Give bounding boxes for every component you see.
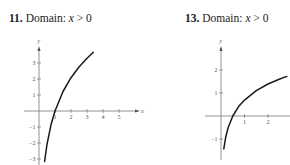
- plots-canvas: xy12345321−1−2−3y1221−1: [0, 0, 290, 165]
- y-tick-label: −1: [211, 136, 217, 142]
- x-tick-label: 4: [102, 114, 105, 120]
- y-tick-label: −3: [29, 156, 35, 162]
- curve-line: [224, 76, 287, 148]
- y-tick-label: −1: [29, 124, 35, 130]
- x-axis-arrow-icon: [135, 109, 140, 112]
- x-tick-label: 2: [267, 119, 270, 125]
- y-axis-label: y: [219, 38, 223, 44]
- y-tick-label: −2: [29, 140, 35, 146]
- graph-0: xy12345321−1−2−3: [24, 38, 144, 165]
- x-tick-label: 2: [70, 114, 73, 120]
- y-tick-label: 2: [33, 76, 36, 82]
- y-tick-label: 1: [33, 92, 36, 98]
- x-tick-label: 5: [118, 114, 121, 120]
- y-axis-arrow-icon: [37, 46, 40, 51]
- graph-1: y1221−1: [205, 38, 290, 160]
- y-axis-arrow-icon: [219, 46, 222, 51]
- y-axis-label: y: [37, 38, 41, 44]
- curve-line: [45, 52, 94, 161]
- y-tick-label: 3: [33, 60, 36, 66]
- y-tick-label: 1: [215, 90, 218, 96]
- x-tick-label: 3: [86, 114, 89, 120]
- x-axis-label: x: [140, 108, 144, 114]
- y-tick-label: 2: [215, 67, 218, 73]
- x-tick-label: 1: [243, 119, 246, 125]
